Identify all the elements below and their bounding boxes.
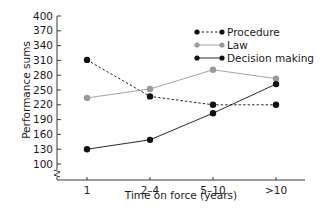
line-chart: 100130160190220250280310340370400 12–45–… — [0, 0, 323, 221]
legend-label-procedure: Procedure — [227, 26, 280, 38]
series-line-law — [87, 70, 276, 98]
legend-marker-procedure — [219, 29, 224, 34]
y-axis-title: Performance sums — [20, 41, 32, 139]
y-tick-label: 340 — [33, 39, 53, 51]
legend-item-procedure: Procedure — [194, 26, 279, 38]
data-point-decision-making — [273, 81, 279, 87]
legend-marker-law — [194, 42, 199, 47]
y-tick-label: 160 — [33, 128, 53, 140]
y-tick-label: 370 — [33, 24, 53, 36]
data-point-procedure — [84, 57, 90, 63]
legend-label-decision-making: Decision making — [227, 52, 314, 64]
data-point-procedure — [147, 93, 153, 99]
data-point-law — [210, 67, 216, 73]
data-point-law — [84, 95, 90, 101]
y-tick-label: 400 — [33, 10, 53, 22]
y-tick-label: 190 — [33, 113, 53, 125]
data-point-decision-making — [147, 137, 153, 143]
y-tick-label: 220 — [33, 98, 53, 110]
data-point-law — [147, 86, 153, 92]
y-tick-label: 250 — [33, 84, 53, 96]
legend-item-decision-making: Decision making — [194, 52, 314, 64]
y-tick-label: 310 — [33, 54, 53, 66]
y-tick-label: 130 — [33, 143, 53, 155]
y-tick-label: 280 — [33, 69, 53, 81]
y-tick-label: 100 — [33, 158, 53, 170]
legend-marker-decision-making — [219, 55, 224, 60]
series-decision-making — [84, 81, 279, 153]
series-line-procedure — [87, 60, 276, 105]
legend-label-law: Law — [227, 39, 248, 51]
data-point-decision-making — [84, 146, 90, 152]
legend-marker-procedure — [194, 29, 199, 34]
legend-marker-law — [219, 42, 224, 47]
data-point-procedure — [210, 102, 216, 108]
x-axis-title: Time on force (years) — [124, 189, 237, 201]
series-procedure — [84, 57, 279, 108]
y-axis-break-mark — [54, 170, 60, 177]
data-point-decision-making — [210, 110, 216, 116]
y-axis: 100130160190220250280310340370400 — [33, 10, 61, 180]
legend: ProcedureLawDecision making — [194, 26, 314, 64]
legend-marker-decision-making — [194, 55, 199, 60]
x-tick-label: 1 — [84, 184, 91, 196]
data-point-procedure — [273, 102, 279, 108]
series-layer — [84, 57, 279, 153]
legend-item-law: Law — [194, 39, 248, 51]
x-tick-label: >10 — [265, 184, 287, 196]
